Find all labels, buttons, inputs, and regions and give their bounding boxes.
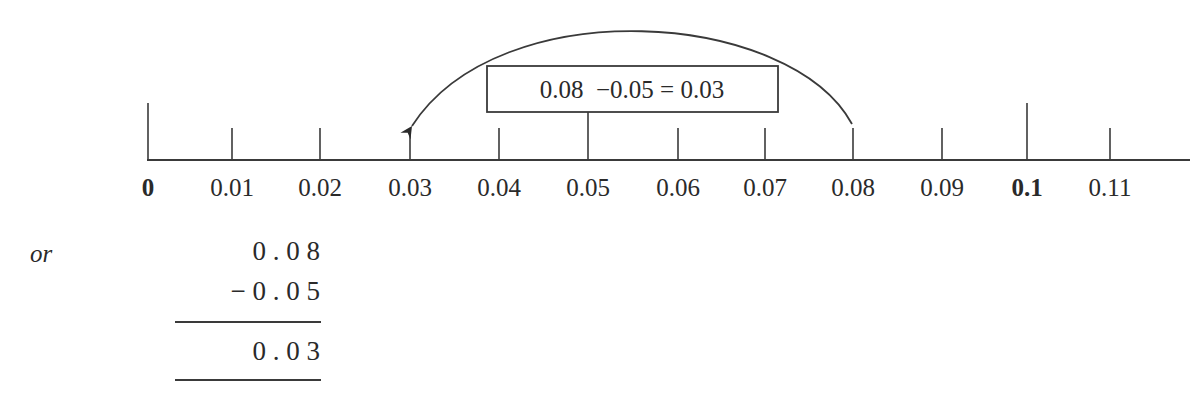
tick-label: 0.04	[477, 174, 521, 201]
subtraction-rule-line	[175, 321, 321, 323]
equation-text: 0.08 −0.05 = 0.03	[540, 76, 724, 103]
minuend-row: 0 . 0 8	[200, 236, 320, 267]
tick-label: 0.05	[566, 174, 610, 201]
result-row: 0 . 0 3	[200, 336, 320, 367]
or-connector-label: or	[30, 240, 52, 268]
tick-label: 0.09	[920, 174, 964, 201]
tick-label: 0.08	[831, 174, 875, 201]
tick-label: 0.1	[1011, 174, 1042, 201]
result-underline	[175, 379, 321, 381]
tick-label: 0.11	[1089, 174, 1132, 201]
tick-label: 0.02	[298, 174, 342, 201]
tick-label: 0.06	[656, 174, 700, 201]
subtrahend-row: − 0 . 0 5	[170, 276, 320, 307]
number-line-labels: 00.010.020.030.040.050.060.070.080.090.1…	[142, 174, 1132, 201]
number-line-diagram: 00.010.020.030.040.050.060.070.080.090.1…	[0, 0, 1201, 401]
tick-label: 0.07	[743, 174, 787, 201]
tick-label: 0	[142, 174, 155, 201]
tick-label: 0.01	[210, 174, 254, 201]
tick-label: 0.03	[388, 174, 432, 201]
equation-box: 0.08 −0.05 = 0.03	[487, 66, 778, 112]
